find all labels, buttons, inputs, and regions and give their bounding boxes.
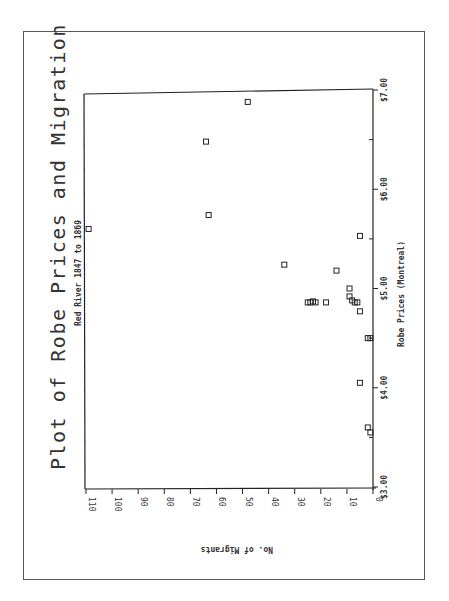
migrants-tick-label: 10 [348, 497, 357, 507]
plot-border-left [84, 94, 85, 489]
migrants-tick-label: 20 [322, 497, 331, 507]
price-tick-label: $3.00 [380, 475, 389, 499]
data-point-square [86, 226, 91, 231]
data-point-square [347, 286, 352, 291]
data-point-square [206, 213, 211, 218]
migrants-tick-label: 80 [165, 497, 174, 507]
data-point-square [357, 233, 362, 238]
chart-subtitle: Red River 1847 to 1869 [74, 220, 83, 326]
data-point-square [245, 99, 250, 104]
migrants-tick-label: 60 [217, 497, 226, 507]
data-point-square [357, 309, 362, 314]
data-point-square [282, 262, 287, 267]
x-axis-label: Robe Prices (Montreal) [397, 241, 406, 347]
data-point-square [334, 268, 339, 273]
price-tick-label: $4.00 [380, 375, 389, 399]
migrants-tick-label: 30 [296, 497, 305, 507]
migrants-tick-label: 50 [244, 497, 253, 507]
price-tick-label: $7.00 [380, 78, 389, 102]
data-point-square [365, 425, 370, 430]
data-point-square [324, 300, 329, 305]
migrants-tick-label: 110 [87, 497, 96, 512]
price-tick-label: $6.00 [380, 177, 389, 201]
migrants-tick-label: 0 [374, 497, 383, 502]
data-point-square [368, 430, 373, 435]
plot-border-top [84, 89, 373, 94]
migrants-tick-label: 100 [113, 497, 122, 512]
data-point-square [357, 380, 362, 385]
data-point-square [204, 139, 209, 144]
migrants-axis [85, 488, 376, 489]
y-axis-label: No. of Migrants [201, 545, 273, 554]
migrants-tick-label: 40 [270, 497, 279, 507]
chart-title: Plot of Robe Prices and Migration [46, 23, 70, 470]
price-tick-label: $5.00 [380, 276, 389, 300]
migrants-tick-label: 90 [139, 497, 148, 507]
migrants-tick-label: 70 [191, 497, 200, 507]
